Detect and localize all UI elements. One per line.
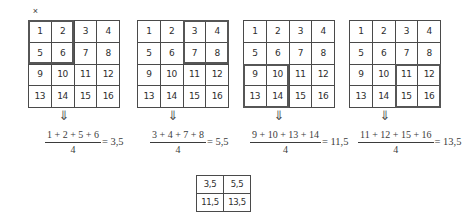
down-arrow-icon-4: ⇓: [375, 108, 395, 123]
grid-cells: 12345678910111213141516: [349, 20, 441, 108]
fraction-denominator: 4: [393, 143, 398, 156]
grid-cell: 2: [373, 21, 396, 43]
result-cell: 3,5: [197, 176, 224, 194]
result-cell: 13,5: [224, 194, 251, 212]
number-grid-1: 12345678910111213141516: [28, 20, 120, 108]
grid-cell: 1: [350, 21, 373, 43]
grid-cell: 6: [161, 43, 184, 65]
grid-cells: 12345678910111213141516: [137, 20, 229, 108]
grid-cell: 13: [138, 86, 161, 108]
grid-cell: 12: [418, 65, 441, 87]
grid-cell: 5: [244, 43, 267, 65]
grid-cell: 3: [396, 21, 419, 43]
grid-cell: 12: [97, 65, 120, 87]
grid-cell: 10: [52, 65, 75, 87]
grid-cell: 9: [29, 65, 52, 87]
number-grid-3: 12345678910111213141516: [243, 20, 335, 108]
grid-cell: 3: [184, 21, 207, 43]
grid-cell: 12: [312, 65, 335, 87]
fraction-denominator: 4: [175, 143, 180, 156]
grid-cell: 8: [312, 43, 335, 65]
mean-formula-1: 1 + 2 + 5 + 64= 3,5: [45, 126, 124, 158]
grid-cell: 2: [161, 21, 184, 43]
grid-cell: 11: [396, 65, 419, 87]
grid-cell: 8: [206, 43, 229, 65]
grid-cell: 15: [396, 86, 419, 108]
grid-cell: 15: [290, 86, 313, 108]
grid-cell: 16: [418, 86, 441, 108]
grid-cell: 10: [161, 65, 184, 87]
down-arrow-icon-2: ⇓: [163, 108, 183, 123]
grid-cell: 6: [52, 43, 75, 65]
grid-cell: 5: [138, 43, 161, 65]
result-table: 3,55,511,513,5: [196, 175, 251, 212]
grid-cell: 16: [206, 86, 229, 108]
mean-formula-2: 3 + 4 + 7 + 84= 5,5: [150, 126, 229, 158]
fraction: 11 + 12 + 15 + 164: [358, 129, 434, 156]
result-cell: 11,5: [197, 194, 224, 212]
grid-cell: 12: [206, 65, 229, 87]
grid-cell: 13: [350, 86, 373, 108]
grid-cell: 10: [267, 65, 290, 87]
grid-cell: 5: [29, 43, 52, 65]
grid-cells: 12345678910111213141516: [28, 20, 120, 108]
grid-cell: 1: [29, 21, 52, 43]
grid-cell: 2: [52, 21, 75, 43]
fraction: 9 + 10 + 13 + 144: [250, 129, 321, 156]
grid-cell: 4: [312, 21, 335, 43]
grid-cell: 3: [290, 21, 313, 43]
mean-formula-3: 9 + 10 + 13 + 144= 11,5: [250, 126, 348, 158]
grid-cell: 14: [373, 86, 396, 108]
grid-cell: 7: [75, 43, 98, 65]
grid-cell: 16: [312, 86, 335, 108]
down-arrow-icon-1: ⇓: [54, 108, 74, 123]
fraction-numerator: 11 + 12 + 15 + 16: [358, 129, 434, 142]
grid-cell: 4: [418, 21, 441, 43]
number-grid-2: 12345678910111213141516: [137, 20, 229, 108]
grid-cell: 16: [97, 86, 120, 108]
grid-cell: 9: [244, 65, 267, 87]
grid-cells: 12345678910111213141516: [243, 20, 335, 108]
fraction-numerator: 1 + 2 + 5 + 6: [45, 129, 101, 142]
grid-panels-row: 1234567891011121314151612345678910111213…: [0, 20, 467, 108]
fraction-numerator: 9 + 10 + 13 + 14: [250, 129, 321, 142]
grid-cell: 9: [350, 65, 373, 87]
formula-result: = 3,5: [102, 136, 124, 148]
grid-cell: 4: [97, 21, 120, 43]
grid-cell: 1: [244, 21, 267, 43]
grid-cell: 1: [138, 21, 161, 43]
grid-cell: 11: [75, 65, 98, 87]
fraction-denominator: 4: [283, 143, 288, 156]
grid-cell: 14: [161, 86, 184, 108]
down-arrow-icon-3: ⇓: [269, 108, 289, 123]
grid-cell: 11: [184, 65, 207, 87]
fraction: 1 + 2 + 5 + 64: [45, 129, 101, 156]
formula-result: = 13,5: [435, 136, 462, 148]
fraction: 3 + 4 + 7 + 84: [150, 129, 206, 156]
close-icon[interactable]: ×: [31, 7, 40, 16]
grid-cell: 8: [97, 43, 120, 65]
grid-cell: 13: [29, 86, 52, 108]
grid-cell: 2: [267, 21, 290, 43]
grid-cell: 3: [75, 21, 98, 43]
grid-cell: 10: [373, 65, 396, 87]
grid-cell: 7: [290, 43, 313, 65]
fraction-numerator: 3 + 4 + 7 + 8: [150, 129, 206, 142]
grid-cell: 14: [267, 86, 290, 108]
grid-cell: 6: [267, 43, 290, 65]
grid-cell: 15: [184, 86, 207, 108]
grid-cell: 8: [418, 43, 441, 65]
grid-cell: 13: [244, 86, 267, 108]
arrows-row: ⇓⇓⇓⇓: [0, 108, 467, 124]
grid-cell: 15: [75, 86, 98, 108]
number-grid-4: 12345678910111213141516: [349, 20, 441, 108]
grid-cell: 5: [350, 43, 373, 65]
grid-cell: 14: [52, 86, 75, 108]
formula-result: = 11,5: [322, 136, 349, 148]
grid-cell: 9: [138, 65, 161, 87]
grid-cell: 7: [396, 43, 419, 65]
result-cell: 5,5: [224, 176, 251, 194]
mean-formula-4: 11 + 12 + 15 + 164= 13,5: [358, 126, 461, 158]
grid-cell: 4: [206, 21, 229, 43]
formula-result: = 5,5: [207, 136, 229, 148]
